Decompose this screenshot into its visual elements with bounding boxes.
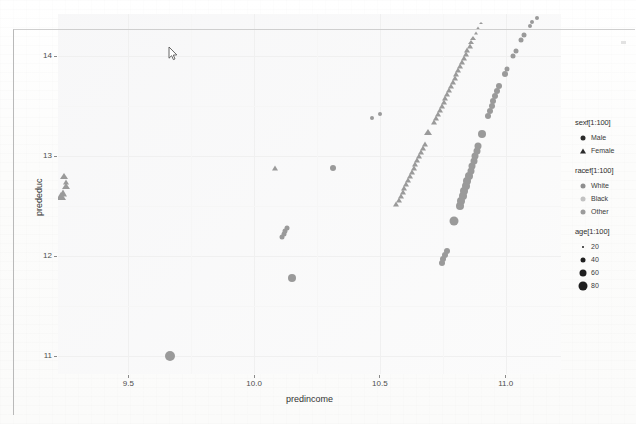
- legend-item[interactable]: Female: [575, 144, 636, 157]
- legend-item[interactable]: 20: [575, 240, 636, 253]
- legend-key-circle-icon: [575, 205, 591, 218]
- x-tick-mark: [128, 375, 129, 378]
- data-point: [284, 226, 289, 231]
- data-point: [370, 116, 374, 120]
- data-point: [60, 173, 68, 179]
- plot-panel: [58, 14, 561, 374]
- data-point: [511, 54, 516, 59]
- data-point: [470, 36, 476, 40]
- legend-item[interactable]: 40: [575, 253, 636, 266]
- legend-label: 20: [591, 243, 599, 250]
- data-point: [62, 183, 70, 189]
- legend-key-circle-icon: [575, 279, 591, 292]
- x-tick-mark: [254, 375, 255, 378]
- data-point: [444, 248, 450, 254]
- data-point: [288, 274, 296, 282]
- legend-key-circle-icon: [575, 253, 591, 266]
- data-point: [272, 166, 278, 171]
- x-tick-label: 9.5: [114, 379, 142, 388]
- gridline-y: [58, 156, 561, 157]
- gridline-x-minor: [317, 14, 318, 374]
- legend-label: Male: [591, 134, 606, 141]
- y-tick-label: 11: [22, 351, 52, 360]
- x-axis-title: predincome: [280, 394, 340, 404]
- data-point: [422, 142, 428, 147]
- gridline-x: [128, 14, 129, 374]
- x-tick-label: 10.5: [366, 379, 394, 388]
- legend-title: age[1:100]: [575, 227, 636, 236]
- data-point: [513, 49, 518, 54]
- legend-label: Other: [591, 208, 609, 215]
- gridline-y-minor: [58, 206, 561, 207]
- data-point: [475, 143, 482, 150]
- gridline-x: [380, 14, 381, 374]
- data-point: [504, 67, 509, 72]
- legend-title: racef[1:100]: [575, 166, 636, 175]
- data-point: [502, 71, 508, 77]
- gridline-x-minor: [191, 14, 192, 374]
- y-tick-mark: [54, 56, 57, 57]
- x-tick-label: 11.0: [492, 379, 520, 388]
- y-tick-label: 14: [22, 51, 52, 60]
- legend-key-circle-icon: [575, 266, 591, 279]
- legend-item[interactable]: Male: [575, 131, 636, 144]
- age-legend: age[1:100]20406080: [575, 227, 636, 292]
- data-point: [519, 38, 524, 43]
- data-point: [530, 20, 534, 24]
- x-tick-label: 10.0: [240, 379, 268, 388]
- data-point: [450, 217, 459, 226]
- scatter-plot: 9.510.010.511.014131211 predincome prede…: [0, 0, 636, 424]
- legend-label: White: [591, 182, 609, 189]
- data-point: [521, 33, 526, 38]
- data-point: [478, 130, 486, 138]
- legend-title: sexf[1:100]: [575, 118, 636, 127]
- data-point: [424, 129, 432, 135]
- data-point: [496, 83, 502, 89]
- data-point: [58, 192, 66, 200]
- y-tick-mark: [54, 256, 57, 257]
- panel-background: [58, 14, 561, 374]
- gridline-y: [58, 256, 561, 257]
- data-point: [528, 24, 532, 28]
- y-tick-label: 13: [22, 151, 52, 160]
- y-tick-mark: [54, 156, 57, 157]
- gridline-y: [58, 56, 561, 57]
- gridline-x-minor: [443, 14, 444, 374]
- legend-label: 40: [591, 256, 599, 263]
- y-tick-mark: [54, 356, 57, 357]
- gridline-x: [254, 14, 255, 374]
- legend-key-circle-icon: [575, 240, 591, 253]
- data-point: [476, 27, 480, 30]
- x-tick-mark: [379, 375, 380, 378]
- data-point: [467, 44, 473, 49]
- data-point: [479, 22, 483, 24]
- legend-key-circle-icon: [575, 192, 591, 205]
- legend-item[interactable]: Other: [575, 205, 636, 218]
- legend-item[interactable]: White: [575, 179, 636, 192]
- legend-container: sexf[1:100]MaleFemaleracef[1:100]WhiteBl…: [575, 118, 636, 301]
- legend-item[interactable]: 80: [575, 279, 636, 292]
- legend-label: Female: [591, 147, 614, 154]
- data-point: [330, 165, 336, 171]
- x-tick-mark: [505, 375, 506, 378]
- sex-legend: sexf[1:100]MaleFemale: [575, 118, 636, 157]
- y-axis-title: prededuc: [34, 178, 44, 216]
- legend-label: 80: [591, 282, 599, 289]
- legend-label: Black: [591, 195, 608, 202]
- gridline-y-minor: [58, 106, 561, 107]
- data-point: [378, 112, 382, 116]
- data-point: [165, 351, 175, 361]
- race-legend: racef[1:100]WhiteBlackOther: [575, 166, 636, 218]
- legend-key-triangle-icon: [575, 144, 591, 157]
- data-point: [468, 40, 474, 44]
- legend-key-circle-icon: [575, 131, 591, 144]
- legend-item[interactable]: 60: [575, 266, 636, 279]
- gridline-y-minor: [58, 306, 561, 307]
- legend-item[interactable]: Black: [575, 192, 636, 205]
- data-point: [474, 32, 478, 35]
- legend-key-circle-icon: [575, 179, 591, 192]
- gridline-y: [58, 356, 561, 357]
- data-point: [535, 16, 539, 20]
- legend-label: 60: [591, 269, 599, 276]
- y-tick-label: 12: [22, 251, 52, 260]
